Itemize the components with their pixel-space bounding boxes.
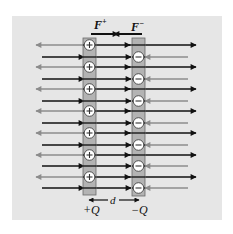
negative-plate-label: −Q <box>131 203 148 217</box>
capacitor-diagram: F+ F− d +Q −Q <box>0 0 233 234</box>
positive-charge <box>84 128 95 139</box>
positive-charge <box>84 150 95 161</box>
separation-label: d <box>110 194 116 206</box>
positive-plate-label: +Q <box>83 203 100 217</box>
negative-charge <box>133 118 144 129</box>
positive-charge <box>84 172 95 183</box>
positive-charge <box>84 84 95 95</box>
positive-charge <box>84 106 95 117</box>
negative-charge <box>133 52 144 63</box>
positive-charge <box>84 40 95 51</box>
negative-charge <box>133 161 144 172</box>
positive-charge <box>84 62 95 73</box>
background-panel <box>12 16 222 220</box>
negative-charge <box>133 140 144 151</box>
negative-charge <box>133 74 144 85</box>
negative-charge <box>133 183 144 194</box>
negative-charge <box>133 96 144 107</box>
